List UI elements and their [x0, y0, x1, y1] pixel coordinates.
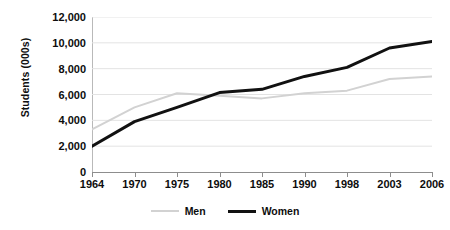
x-axis-tick-labels: 196419701975198019851990199820032006 — [92, 178, 432, 196]
x-axis-tick-mark — [347, 173, 348, 177]
x-axis-tick-label: 1970 — [122, 178, 146, 190]
x-axis-tick-mark — [92, 173, 93, 177]
data-series-layer — [92, 17, 432, 172]
y-axis-tick-label: 6,000 — [34, 89, 86, 101]
legend-swatch-icon — [228, 210, 256, 213]
y-axis-tick-label: 8,000 — [34, 63, 86, 75]
x-axis-tick-mark — [262, 173, 263, 177]
y-axis-title: Students (000s) — [14, 0, 36, 155]
y-axis-tick-label: 4,000 — [34, 114, 86, 126]
line-chart: Students (000s) 02,0004,0006,0008,00010,… — [0, 0, 450, 230]
series-line-men — [92, 76, 432, 129]
y-axis-tick-label: 12,000 — [34, 11, 86, 23]
y-axis-tick-label: 2,000 — [34, 140, 86, 152]
x-axis-tick-label: 1964 — [80, 178, 104, 190]
series-line-women — [92, 42, 432, 147]
x-axis-tick-label: 2006 — [420, 178, 444, 190]
x-axis-tick-mark — [177, 173, 178, 177]
chart-legend: MenWomen — [0, 201, 450, 221]
legend-label: Men — [185, 205, 206, 217]
legend-label: Women — [262, 205, 300, 217]
x-axis-tick-mark — [220, 173, 221, 177]
legend-item-men[interactable]: Men — [151, 205, 206, 217]
plot-area — [92, 17, 432, 172]
legend-swatch-icon — [151, 210, 179, 212]
y-axis-tick-label: 0 — [34, 166, 86, 178]
x-axis-tick-label: 1985 — [250, 178, 274, 190]
y-axis-tick-labels: 02,0004,0006,0008,00010,00012,000 — [34, 10, 86, 178]
x-axis-tick-label: 2003 — [377, 178, 401, 190]
x-axis-tick-label: 1998 — [335, 178, 359, 190]
legend-item-women[interactable]: Women — [228, 205, 300, 217]
x-axis-tick-mark — [432, 173, 433, 177]
x-axis-tick-mark — [390, 173, 391, 177]
x-axis-tick-mark — [135, 173, 136, 177]
y-axis-tick-label: 10,000 — [34, 37, 86, 49]
x-axis-tick-mark — [305, 173, 306, 177]
x-axis-tick-label: 1990 — [292, 178, 316, 190]
x-axis-tick-label: 1975 — [165, 178, 189, 190]
x-axis-tick-label: 1980 — [207, 178, 231, 190]
